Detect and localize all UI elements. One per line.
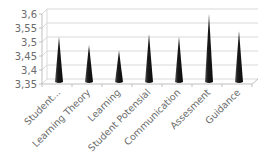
cone-chart: 3,353,43,453,53,553,6 Student...Learning… [0,0,273,163]
floor-edge [252,79,258,84]
y-tick-label: 3,4 [21,65,37,76]
cone-bar [205,14,213,83]
side-gridline [42,23,47,28]
cone-bar [115,51,123,83]
y-tick-label: 3,45 [15,51,37,62]
y-axis-ticks: 3,353,43,453,53,553,6 [15,9,37,90]
x-axis-labels: Student...Learning TheoryLearningStudent… [22,86,243,153]
y-tick-label: 3,35 [15,79,37,90]
side-gridline [42,51,47,56]
x-category-label: Learning Theory [30,86,93,149]
side-gridline [42,37,47,42]
y-tick-label: 3,6 [21,9,37,20]
cone-bar [145,34,153,83]
cone-bar [55,37,63,83]
y-tick-label: 3,5 [21,37,37,48]
side-gridline [42,79,47,84]
side-gridline [42,65,47,70]
y-tick-label: 3,55 [15,23,37,34]
cone-bar [175,37,183,83]
side-gridline [42,9,47,14]
cone-series [55,14,243,83]
cone-bar [235,31,243,83]
